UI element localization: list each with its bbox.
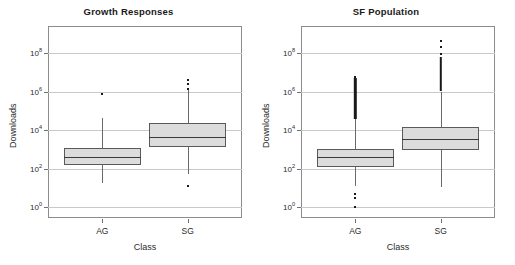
whisker-lower [355,167,356,186]
y-tick-label: 108 [20,49,42,58]
y-tick-label: 102 [20,164,42,173]
grid-line [301,207,495,208]
x-tick-label: AG [349,226,361,236]
outlier-point [354,206,356,208]
y-tick-mark [44,207,48,208]
panel-title: SF Population [257,6,515,17]
y-tick-label: 102 [273,164,295,173]
whisker-upper [102,118,103,147]
y-tick-label: 100 [20,203,42,212]
box-sg [149,123,227,147]
whisker-lower [102,165,103,183]
outlier-point [187,79,189,81]
y-tick-mark [44,169,48,170]
x-tick-label: SG [182,226,194,236]
y-tick-label: 108 [273,49,295,58]
grid-line [48,92,242,93]
grid-line [301,92,495,93]
y-tick-label: 100 [273,203,295,212]
y-tick-label: 106 [20,87,42,96]
panel-sf-population: SF Population Downloads Class 1001021041… [257,0,515,265]
median-line [149,137,227,138]
y-tick-label: 106 [273,87,295,96]
x-tick-mark [102,219,103,223]
x-tick-mark [188,219,189,223]
whisker-upper [355,119,356,149]
grid-line [48,169,242,170]
y-axis-title: Downloads [8,103,18,148]
outlier-cluster [354,78,356,119]
outlier-point [354,197,356,199]
panel-title: Growth Responses [0,6,257,17]
x-axis-title: Class [134,242,157,252]
median-line [64,157,142,158]
outlier-point [354,77,356,79]
outlier-point [440,40,442,42]
x-axis-title: Class [387,242,410,252]
median-line [402,139,480,140]
plot-frame [301,26,495,218]
panel-growth-responses: Growth Responses Downloads Class 1001021… [0,0,257,265]
whisker-lower [441,150,442,187]
x-tick-mark [441,219,442,223]
y-tick-mark [297,130,301,131]
outlier-point [440,46,442,48]
grid-line [301,53,495,54]
y-tick-mark [297,169,301,170]
outlier-point [440,53,442,55]
whisker-upper [188,89,189,123]
grid-line [301,169,495,170]
whisker-lower [188,147,189,174]
outlier-point [354,193,356,195]
plot-frame [48,26,242,218]
median-line [317,157,395,158]
x-tick-label: AG [96,226,108,236]
x-tick-mark [355,219,356,223]
y-axis-title: Downloads [261,103,271,148]
y-tick-label: 104 [273,126,295,135]
whisker-upper [441,92,442,127]
y-tick-label: 104 [20,126,42,135]
outlier-point [101,93,103,95]
grid-line [48,53,242,54]
outlier-point [187,83,189,85]
outlier-point [187,88,189,90]
y-tick-mark [297,207,301,208]
y-tick-mark [297,53,301,54]
grid-line [48,207,242,208]
boxplot-figure: Growth Responses Downloads Class 1001021… [0,0,515,265]
y-tick-mark [44,130,48,131]
outlier-cluster [439,57,441,91]
y-tick-mark [44,92,48,93]
y-tick-mark [44,53,48,54]
outlier-point [187,185,189,187]
y-tick-mark [297,92,301,93]
x-tick-label: SG [435,226,447,236]
